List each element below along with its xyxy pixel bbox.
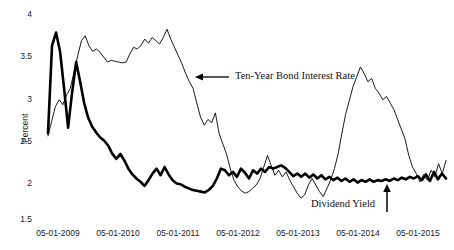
chart-container: 4 3.5 3 2.5 2 1.5 Percent 05-01-2009 05-… bbox=[0, 0, 454, 250]
y-axis-title: Percent bbox=[20, 114, 30, 143]
y-tick-1p5: 1.5 bbox=[10, 215, 32, 224]
x-tick-2009: 05-01-2009 bbox=[31, 229, 85, 238]
chart-plot-area bbox=[0, 0, 454, 250]
y-tick-3p5: 3.5 bbox=[10, 52, 32, 61]
x-tick-2012: 05-01-2012 bbox=[211, 229, 265, 238]
y-tick-4: 4 bbox=[10, 10, 32, 19]
x-tick-2015: 05-01-2015 bbox=[391, 229, 445, 238]
x-tick-2011: 05-01-2011 bbox=[151, 229, 205, 238]
annotation-label-bond: Ten-Year Bond Interest Rate bbox=[235, 71, 355, 82]
x-tick-2014: 05-01-2014 bbox=[331, 229, 385, 238]
annotation-label-dividend: Dividend Yield bbox=[311, 199, 375, 210]
y-tick-2: 2 bbox=[10, 179, 32, 188]
x-tick-2010: 05-01-2010 bbox=[91, 229, 145, 238]
y-tick-3: 3 bbox=[10, 95, 32, 104]
x-tick-2013: 05-01-2013 bbox=[271, 229, 325, 238]
